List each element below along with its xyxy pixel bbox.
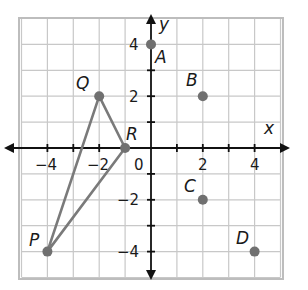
x-axis-label: x — [263, 118, 275, 138]
point-label-c: C — [184, 176, 196, 196]
x-tick-label-4: 4 — [250, 156, 260, 174]
origin-label: 0 — [134, 156, 144, 174]
coordinate-plane: y x −4 −2 0 2 4 4 2 −2 −4 A B C D P Q R — [0, 0, 308, 290]
point-label-d: D — [236, 228, 249, 248]
y-tick-label-minus-2: −2 — [117, 191, 139, 209]
point-label-b: B — [186, 70, 198, 90]
x-tick-label-minus-2: −2 — [87, 156, 109, 174]
y-axis-label: y — [158, 14, 170, 34]
point-label-r: R — [126, 124, 138, 144]
point-q — [94, 91, 104, 101]
point-d — [250, 247, 260, 257]
point-label-q: Q — [76, 73, 89, 93]
y-tick-label-4: 4 — [129, 36, 139, 54]
point-p — [42, 247, 52, 257]
point-label-p: P — [29, 230, 40, 250]
point-label-a: A — [154, 47, 167, 67]
point-r — [120, 143, 130, 153]
x-tick-label-minus-4: −4 — [35, 156, 57, 174]
point-b — [198, 91, 208, 101]
y-tick-label-2: 2 — [129, 88, 139, 106]
point-c — [198, 195, 208, 205]
coordinate-plane-figure: y x −4 −2 0 2 4 4 2 −2 −4 A B C D P Q R — [0, 0, 308, 290]
x-axis-right-arrow-icon — [280, 143, 290, 153]
x-tick-label-2: 2 — [198, 156, 208, 174]
y-tick-label-minus-4: −4 — [117, 243, 139, 261]
x-axis-left-arrow-icon — [4, 143, 14, 153]
